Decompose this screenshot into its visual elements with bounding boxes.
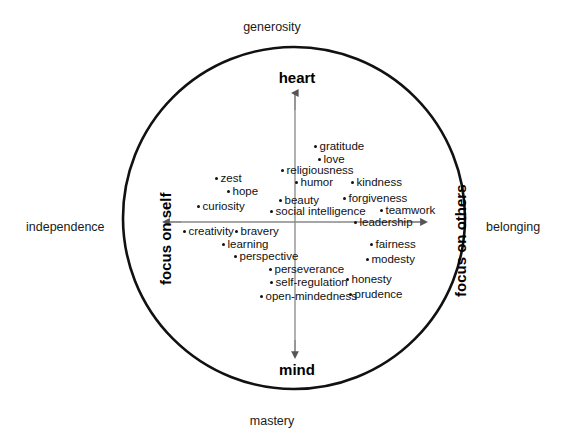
strength-point: fairness (370, 239, 416, 251)
strength-point: perseverance (269, 264, 344, 276)
point-marker-dot-icon (279, 199, 282, 202)
outer-label-bottom: mastery (250, 415, 294, 428)
strength-point-label: prudence (355, 288, 403, 300)
outer-label-right: belonging (486, 221, 540, 234)
point-marker-dot-icon (270, 281, 273, 284)
point-marker-dot-icon (234, 255, 237, 258)
point-marker-dot-icon (260, 295, 263, 298)
strength-point-label: bravery (241, 225, 279, 237)
point-marker-dot-icon (366, 258, 369, 261)
point-marker-dot-icon (227, 190, 230, 193)
strength-point-label: religiousness (287, 164, 354, 176)
point-marker-dot-icon (269, 268, 272, 271)
strength-point: learning (222, 239, 268, 251)
point-marker-dot-icon (235, 230, 238, 233)
point-marker-dot-icon (197, 205, 200, 208)
point-marker-dot-icon (183, 230, 186, 233)
point-marker-dot-icon (349, 293, 352, 296)
strength-point: humor (295, 177, 333, 189)
strength-point-label: humor (301, 176, 334, 188)
point-marker-dot-icon (343, 197, 346, 200)
strength-point: prudence (349, 289, 402, 301)
outer-label-top: generosity (243, 21, 301, 34)
point-marker-dot-icon (370, 243, 373, 246)
outer-label-left: independence (26, 221, 105, 234)
axis-pole-mind: mind (279, 362, 315, 377)
strength-point-label: zest (221, 172, 242, 184)
strength-point: religiousness (281, 165, 354, 177)
strength-point-label: perseverance (275, 263, 345, 275)
strength-point-label: learning (228, 238, 269, 250)
point-marker-dot-icon (318, 158, 321, 161)
point-marker-dot-icon (270, 210, 273, 213)
strength-point-label: social intelligence (276, 205, 366, 217)
point-marker-dot-icon (222, 243, 225, 246)
strength-point-label: forgiveness (349, 192, 408, 204)
strength-point: modesty (366, 254, 415, 266)
axis-pole-focus-on-self: focus on self (158, 192, 173, 285)
point-marker-dot-icon (351, 181, 354, 184)
axis-pole-heart: heart (279, 70, 316, 85)
strength-point: perspective (234, 251, 298, 263)
strength-point: hope (227, 186, 258, 198)
strength-point: self-regulation (270, 277, 348, 289)
strength-point: kindness (351, 177, 402, 189)
strength-point: teamwork (380, 205, 435, 217)
strength-point-label: leadership (360, 216, 413, 228)
strength-point-label: kindness (357, 176, 402, 188)
strength-point-label: honesty (352, 273, 392, 285)
point-marker-dot-icon (314, 145, 317, 148)
strength-point-label: self-regulation (276, 276, 348, 288)
strength-point: zest (215, 173, 242, 185)
strength-point-label: gratitude (320, 140, 365, 152)
point-marker-dot-icon (346, 278, 349, 281)
strength-point-label: creativity (189, 225, 234, 237)
strength-point: creativity (183, 226, 234, 238)
axis-pole-focus-on-others: focus on others (453, 184, 468, 297)
figure-canvas: generosity mastery independence belongin… (0, 0, 568, 448)
outer-circle (123, 47, 465, 389)
strength-point: forgiveness (343, 193, 407, 205)
strength-point: gratitude (314, 141, 364, 153)
strength-point-label: open-mindedness (266, 290, 357, 302)
point-marker-dot-icon (380, 209, 383, 212)
strength-point: social intelligence (270, 206, 366, 218)
strength-point-label: teamwork (386, 204, 436, 216)
strength-point: honesty (346, 274, 392, 286)
strength-point-label: modesty (372, 253, 415, 265)
strength-point: open-mindedness (260, 291, 357, 303)
strength-point-label: curiosity (203, 200, 245, 212)
point-marker-dot-icon (295, 181, 298, 184)
strength-point-label: hope (233, 185, 259, 197)
strength-point-label: fairness (376, 238, 416, 250)
point-marker-dot-icon (281, 169, 284, 172)
strength-point: curiosity (197, 201, 245, 213)
strength-point: bravery (235, 226, 279, 238)
strength-point-label: perspective (240, 250, 299, 262)
point-marker-dot-icon (354, 221, 357, 224)
strength-point: leadership (354, 217, 413, 229)
point-marker-dot-icon (215, 177, 218, 180)
